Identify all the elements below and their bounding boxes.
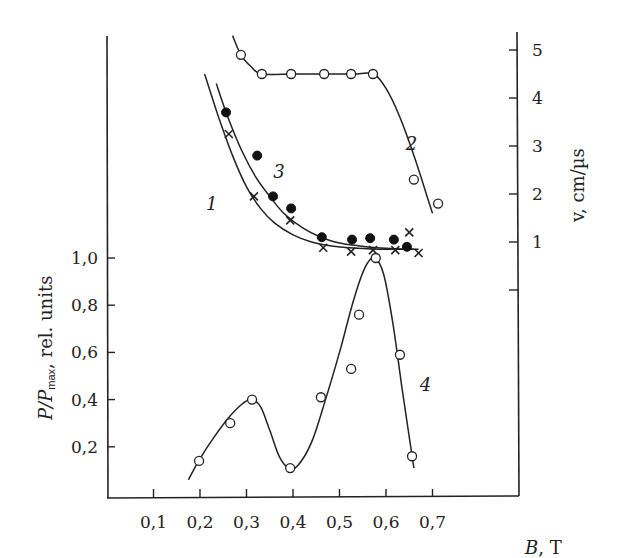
chart: 0,10,20,30,40,50,60,7 0,20,40,60,81,0 12… [0,0,617,558]
point-curve-4 [408,452,417,461]
point-curve-3 [366,234,375,243]
point-curve-3 [287,204,296,213]
right-y-tick-label: 5 [532,40,543,60]
point-curve-4 [248,395,257,404]
point-curve-4 [195,456,204,465]
curve-3 [216,84,414,250]
right-y-axis-title: v, cm/µs [567,148,588,223]
curve-label-4: 4 [419,374,431,395]
x-ticks: 0,10,20,30,40,50,60,7 [140,489,446,532]
right-y-tick-label: 1 [532,232,543,252]
point-curve-2 [368,70,377,79]
point-curve-1 [347,248,355,256]
point-curve-3 [222,108,231,117]
point-curve-3 [269,192,278,201]
point-curve-3 [402,242,411,251]
left-y-tick-label: 0,2 [71,437,98,457]
right-y-ticks: 12345 [509,40,543,290]
point-curve-4 [347,364,356,373]
point-curve-2 [287,70,296,79]
curve-1 [205,74,419,249]
x-axis-unit: , T [538,537,561,558]
point-curve-3 [389,235,398,244]
point-curve-2 [257,70,266,79]
axes [107,32,519,498]
x-axis-var: B [524,537,538,558]
x-axis-title: B, T [524,537,562,558]
point-curve-4 [371,254,380,263]
curve-label-2: 2 [405,133,417,154]
left-y-tick-label: 0,6 [71,342,98,362]
right-y-tick-label: 2 [532,184,543,204]
left-y-axis-title-rest: , rel. units [35,276,56,369]
point-curve-2 [347,70,356,79]
point-curve-4 [395,350,404,359]
point-curve-4 [226,419,235,428]
point-curve-2 [236,50,245,59]
left-y-axis-title-p: P/P [35,389,56,421]
point-curve-2 [434,199,443,208]
point-curve-1 [391,246,399,254]
point-curve-4 [355,310,364,319]
right-y-tick-label: 3 [532,136,543,156]
point-curve-3 [317,233,326,242]
point-curve-3 [348,235,357,244]
left-y-axis [107,36,108,498]
curves [188,36,432,480]
x-tick-label: 0,5 [326,512,353,532]
left-y-axis-title: P/Pmax, rel. units [35,276,57,421]
point-curve-1 [405,228,413,236]
x-axis [107,496,519,498]
point-curve-3 [253,151,262,160]
x-tick-label: 0,4 [279,512,306,532]
curve-label-1: 1 [206,193,217,214]
x-tick-label: 0,2 [186,512,213,532]
point-curve-2 [409,175,418,184]
right-y-tick-label: 4 [532,88,543,108]
right-y-axis [517,32,519,496]
point-curve-1 [225,130,233,138]
curve-label-3: 3 [273,161,284,182]
point-curve-4 [286,464,295,473]
point-curve-2 [320,70,329,79]
x-tick-label: 0,1 [140,512,167,532]
x-tick-label: 0,3 [233,512,260,532]
left-y-tick-label: 1,0 [71,248,98,268]
left-y-tick-label: 0,8 [71,295,98,315]
left-y-axis-title-sub: max [45,368,57,389]
point-curve-4 [316,393,325,402]
x-tick-label: 0,6 [372,512,399,532]
x-tick-label: 0,7 [419,512,446,532]
left-y-tick-label: 0,4 [71,390,98,410]
curve-4 [188,258,414,480]
point-curve-1 [415,249,423,257]
